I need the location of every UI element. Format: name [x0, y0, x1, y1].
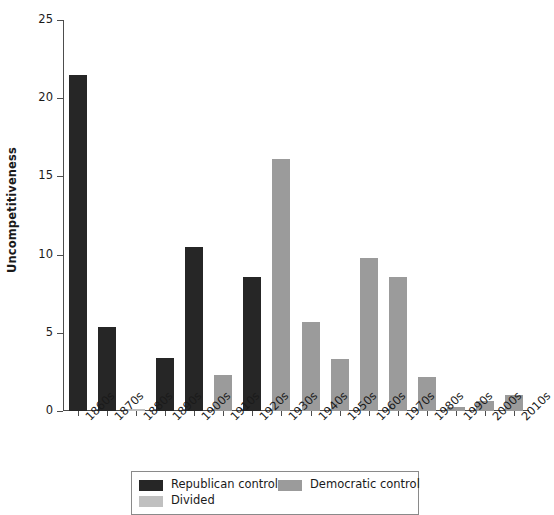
legend-swatch-democratic-control [278, 480, 302, 491]
y-axis-title-text: Uncompetitiveness [5, 147, 19, 273]
legend-row: Divided [139, 493, 411, 509]
x-axis-label-1860s: 1860s [84, 415, 92, 423]
y-axis-title: Uncompetitiveness [2, 0, 22, 420]
x-axis-label-1920s: 1920s [258, 415, 266, 423]
bars-layer [63, 20, 529, 411]
x-axis-label-1980s: 1980s [433, 415, 441, 423]
legend-label-republican-control: Republican control [171, 479, 278, 491]
y-axis-tick-label: 15 [38, 171, 53, 183]
x-axis-label-1990s: 1990s [462, 415, 470, 423]
x-axis-label-1910s: 1910s [229, 415, 237, 423]
legend-swatch-republican-control [139, 480, 163, 491]
y-axis-tick-label: 20 [38, 92, 53, 104]
legend-row: Republican control Democratic control [139, 477, 411, 493]
legend-entry-divided: Divided [139, 495, 289, 507]
x-axis-label-1930s: 1930s [287, 415, 295, 423]
y-axis-tick-label: 0 [46, 405, 53, 417]
x-axis-label-2000s: 2000s [491, 415, 499, 423]
legend-entry-republican-control: Republican control [139, 479, 278, 491]
plot-area: 0510152025 [63, 20, 529, 411]
x-axis-labels: 1860s1870s1880s1890s1900s1910s1920s1930s… [63, 415, 529, 465]
y-axis-tick-label: 10 [38, 249, 53, 261]
legend-label-democratic-control: Democratic control [310, 479, 420, 491]
x-axis-label-1890s: 1890s [171, 415, 179, 423]
x-axis-label-1960s: 1960s [375, 415, 383, 423]
bar-1930s [272, 159, 290, 411]
x-axis-label-1880s: 1880s [142, 415, 150, 423]
y-axis-tick-label: 5 [46, 327, 53, 339]
chart-legend: Republican control Democratic control Di… [131, 471, 419, 515]
y-axis-tick-label: 25 [38, 14, 53, 26]
x-axis-label-1870s: 1870s [113, 415, 121, 423]
bar-1860s [69, 75, 87, 411]
bar-1900s [185, 247, 203, 411]
legend-label-divided: Divided [171, 495, 215, 507]
x-axis-label-1940s: 1940s [317, 415, 325, 423]
x-axis-label-1900s: 1900s [200, 415, 208, 423]
legend-swatch-divided [139, 496, 163, 507]
x-axis-label-2010s: 2010s [520, 415, 528, 423]
x-axis-label-1970s: 1970s [404, 415, 412, 423]
legend-entry-democratic-control: Democratic control [278, 479, 420, 491]
x-axis-label-1950s: 1950s [346, 415, 354, 423]
y-axis-tick: 0 [57, 411, 63, 412]
